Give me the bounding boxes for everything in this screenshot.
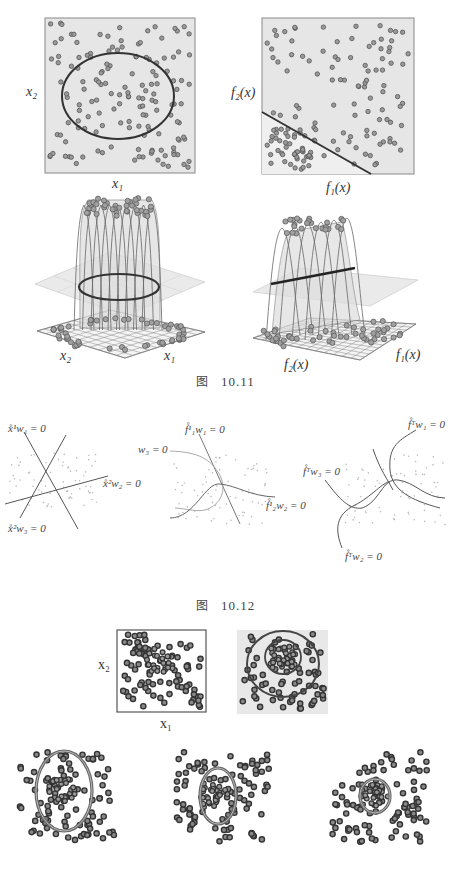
- fig13-a-ylabel: x₂: [98, 657, 110, 673]
- fig13-a-xlabel: x₁: [160, 716, 172, 732]
- fig13-plots: [0, 0, 455, 870]
